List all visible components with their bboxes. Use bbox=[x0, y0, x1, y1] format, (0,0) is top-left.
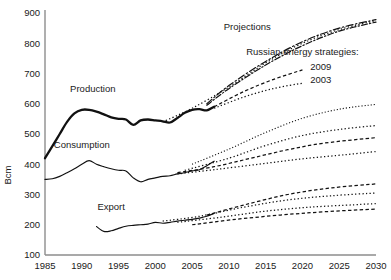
series-line bbox=[45, 107, 214, 158]
series-line bbox=[207, 22, 376, 105]
y-axis-title: Bcm bbox=[2, 165, 13, 184]
y-tick-label: 700 bbox=[24, 68, 40, 79]
series-line bbox=[207, 20, 376, 104]
series-line bbox=[177, 152, 376, 174]
x-tick-label: 1995 bbox=[108, 260, 129, 271]
annotation-label: Consumption bbox=[54, 139, 110, 150]
x-tick-label: 2015 bbox=[255, 260, 276, 271]
x-tick-label: 1990 bbox=[71, 260, 92, 271]
x-tick-label: 2020 bbox=[292, 260, 313, 271]
y-axis-tick-labels: 100200300400500600700800900 bbox=[24, 7, 40, 260]
series-line bbox=[163, 193, 376, 221]
series-line bbox=[185, 126, 376, 171]
y-tick-label: 200 bbox=[24, 219, 40, 230]
chart-annotations: ProductionConsumptionExportProjectionsRu… bbox=[54, 21, 359, 212]
series-line bbox=[96, 213, 214, 231]
chart-container: 100200300400500600700800900 198519901995… bbox=[0, 0, 391, 280]
x-tick-label: 2025 bbox=[329, 260, 350, 271]
series-line bbox=[177, 204, 376, 223]
y-tick-label: 900 bbox=[24, 7, 40, 18]
y-tick-label: 600 bbox=[24, 98, 40, 109]
annotation-label: Russian energy strategies: bbox=[246, 46, 358, 57]
x-tick-label: 1985 bbox=[34, 260, 55, 271]
annotation-label: Production bbox=[70, 83, 115, 94]
y-tick-label: 500 bbox=[24, 128, 40, 139]
annotation-label: 2009 bbox=[310, 61, 331, 72]
x-axis-tick-labels: 1985199019952000200520102015202020252030 bbox=[34, 260, 386, 271]
x-tick-label: 2010 bbox=[218, 260, 239, 271]
x-tick-label: 2000 bbox=[145, 260, 166, 271]
y-tick-label: 400 bbox=[24, 159, 40, 170]
y-tick-label: 800 bbox=[24, 38, 40, 49]
x-tick-label: 2030 bbox=[365, 260, 386, 271]
y-tick-label: 300 bbox=[24, 189, 40, 200]
series-line bbox=[163, 21, 376, 122]
y-tick-label: 100 bbox=[24, 249, 40, 260]
annotation-label: 2003 bbox=[310, 74, 331, 85]
annotation-label: Projections bbox=[224, 21, 271, 32]
series-line bbox=[192, 104, 376, 164]
annotation-label: Export bbox=[97, 201, 125, 212]
line-chart: 100200300400500600700800900 198519901995… bbox=[0, 0, 391, 280]
x-tick-label: 2005 bbox=[182, 260, 203, 271]
